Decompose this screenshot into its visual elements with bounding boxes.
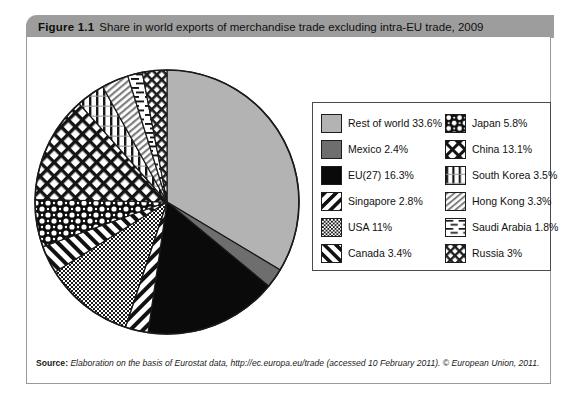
legend-item[interactable]: Mexico 2.4% (321, 140, 445, 159)
pie-chart-svg (33, 68, 301, 336)
legend-label: Hong Kong 3.3% (472, 196, 551, 207)
legend-swatch-icon (321, 192, 342, 211)
source-label: Source: (36, 358, 68, 368)
legend-item[interactable]: Rest of world 33.6% (321, 114, 445, 133)
figure-page: Figure 1.1 Share in world exports of mer… (0, 0, 580, 397)
legend-item[interactable]: Singapore 2.8% (321, 192, 445, 211)
legend-label: Canada 3.4% (348, 248, 412, 259)
legend-grid: Rest of world 33.6%Japan 5.8%Mexico 2.4%… (321, 110, 544, 266)
legend-label: Mexico 2.4% (348, 144, 408, 155)
legend-swatch-icon (321, 114, 342, 133)
legend-label: Saudi Arabia 1.8% (472, 222, 558, 233)
chart-legend: Rest of world 33.6%Japan 5.8%Mexico 2.4%… (312, 102, 551, 271)
legend-label: South Korea 3.5% (472, 170, 557, 181)
legend-item[interactable]: USA 11% (321, 218, 445, 237)
legend-swatch-icon (445, 218, 466, 237)
legend-swatch-icon (321, 244, 342, 263)
legend-item[interactable]: EU(27) 16.3% (321, 166, 445, 185)
legend-swatch-icon (321, 166, 342, 185)
figure-number: Figure 1.1 (38, 21, 94, 33)
legend-label: EU(27) 16.3% (348, 170, 414, 181)
legend-label: Rest of world 33.6% (348, 118, 442, 129)
source-text: Elaboration on the basis of Eurostat dat… (70, 358, 539, 368)
legend-label: Russia 3% (472, 248, 522, 259)
legend-item[interactable]: Saudi Arabia 1.8% (445, 218, 560, 237)
legend-item[interactable]: China 13.1% (445, 140, 560, 159)
legend-swatch-icon (445, 192, 466, 211)
legend-item[interactable]: Russia 3% (445, 244, 560, 263)
legend-swatch-icon (445, 244, 466, 263)
legend-item[interactable]: South Korea 3.5% (445, 166, 560, 185)
legend-swatch-icon (321, 140, 342, 159)
legend-swatch-icon (445, 140, 466, 159)
legend-label: Singapore 2.8% (348, 196, 423, 207)
figure-title: Share in world exports of merchandise tr… (99, 21, 483, 33)
legend-item[interactable]: Hong Kong 3.3% (445, 192, 560, 211)
legend-swatch-icon (445, 166, 466, 185)
legend-label: China 13.1% (472, 144, 532, 155)
pie-chart (33, 68, 301, 336)
legend-label: USA 11% (348, 222, 392, 233)
figure-title-bar: Figure 1.1 Share in world exports of mer… (26, 15, 554, 38)
legend-swatch-icon (445, 114, 466, 133)
pie-slice-group (35, 70, 299, 334)
legend-label: Japan 5.8% (472, 118, 527, 129)
legend-item[interactable]: Canada 3.4% (321, 244, 445, 263)
legend-item[interactable]: Japan 5.8% (445, 114, 560, 133)
source-note: Source: Elaboration on the basis of Euro… (36, 358, 548, 368)
legend-swatch-icon (321, 218, 342, 237)
